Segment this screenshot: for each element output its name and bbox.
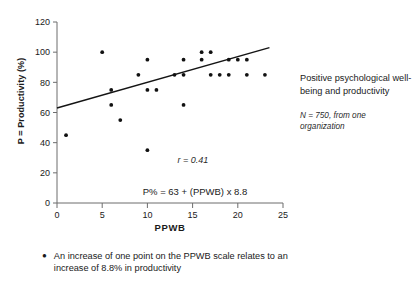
y-tick-label: 120 (35, 17, 50, 27)
data-point (227, 58, 231, 62)
y-tick-label: 0 (45, 198, 50, 208)
bullet-callout: ● An increase of one point on the PPWB s… (40, 250, 290, 275)
data-point (200, 50, 204, 54)
data-point (155, 88, 159, 92)
data-point (245, 73, 249, 77)
data-point (173, 73, 177, 77)
x-tick-label: 20 (233, 210, 243, 220)
y-tick-label: 100 (35, 47, 50, 57)
x-tick-label: 25 (278, 210, 288, 220)
correlation-annotation: r = 0.41 (178, 155, 209, 165)
x-tick-label: 5 (100, 210, 105, 220)
x-tick-label: 15 (188, 210, 198, 220)
x-tick-label: 10 (142, 210, 152, 220)
data-point (118, 118, 122, 122)
data-point (109, 103, 113, 107)
plot-area: 020406080100120 0510152025 r = 0.41 P% =… (0, 0, 292, 244)
side-text-panel: Positive psychological well-being and pr… (300, 72, 412, 132)
data-point (136, 73, 140, 77)
side-panel-title: Positive psychological well-being and pr… (300, 72, 412, 97)
data-point (245, 58, 249, 62)
data-point (209, 50, 213, 54)
scatter-chart: P = Productivity (%) PPWB 02040608010012… (0, 0, 292, 244)
data-point (146, 58, 150, 62)
data-point (182, 103, 186, 107)
x-tick-marks (57, 203, 283, 208)
x-tick-label: 0 (54, 210, 59, 220)
data-point (218, 73, 222, 77)
y-tick-label: 80 (40, 78, 50, 88)
data-point (64, 133, 68, 137)
data-point (182, 58, 186, 62)
data-point (263, 73, 267, 77)
y-tick-label: 60 (40, 108, 50, 118)
y-tick-label: 40 (40, 138, 50, 148)
side-panel-note: N = 750, from one organization (300, 110, 412, 132)
data-point (200, 58, 204, 62)
y-tick-label: 20 (40, 168, 50, 178)
bullet-marker-icon: ● (40, 250, 47, 275)
y-tick-marks (53, 22, 57, 203)
data-point (209, 73, 213, 77)
data-point (146, 88, 150, 92)
regression-trendline (57, 48, 269, 108)
y-tick-labels: 020406080100120 (35, 17, 50, 208)
data-point (109, 88, 113, 92)
data-point (100, 50, 104, 54)
data-point-group (64, 50, 267, 152)
data-point (146, 148, 150, 152)
bullet-text: An increase of one point on the PPWB sca… (54, 250, 290, 275)
data-point (182, 73, 186, 77)
x-tick-labels: 0510152025 (54, 210, 288, 220)
data-point (227, 73, 231, 77)
slide-canvas: P = Productivity (%) PPWB 02040608010012… (0, 0, 416, 296)
equation-annotation: P% = 63 + (PPWB) x 8.8 (143, 186, 248, 197)
data-point (236, 58, 240, 62)
